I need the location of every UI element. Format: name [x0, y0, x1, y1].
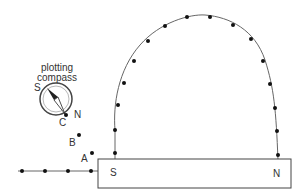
- magnet-south-label: S: [110, 168, 117, 178]
- diagram: plotting compass S N C B A S N: [0, 0, 308, 196]
- point-a-label: A: [81, 154, 88, 164]
- compass-north-label: N: [74, 110, 81, 120]
- field-line: [115, 15, 278, 160]
- point-c-label: C: [59, 118, 66, 128]
- field-line-drawing: [0, 0, 308, 196]
- compass-label: plotting compass: [37, 63, 77, 83]
- compass-icon: [40, 83, 72, 115]
- point-b-label: B: [69, 138, 76, 148]
- compass-south-label: S: [34, 83, 41, 93]
- bar-magnet: [98, 159, 291, 188]
- magnet-north-label: N: [273, 169, 280, 179]
